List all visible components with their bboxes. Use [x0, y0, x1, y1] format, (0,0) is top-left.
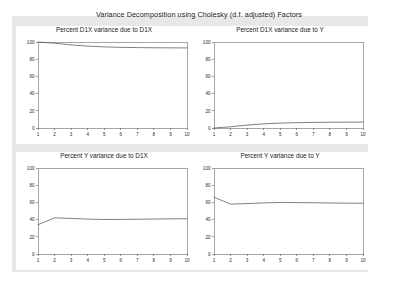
- y-tick-label: 100: [203, 166, 211, 171]
- x-tick-label: 7: [136, 258, 139, 263]
- x-tick-label: 5: [279, 258, 282, 263]
- y-tick-label: 40: [205, 217, 211, 222]
- x-tick-label: 2: [229, 132, 232, 137]
- x-tick-label: 10: [360, 132, 366, 137]
- y-tick-label: 40: [205, 91, 211, 96]
- panel-title-y-due-to-d1x: Percent Y variance due to D1X: [16, 152, 192, 159]
- plot-area-d1x-due-to-d1x: 02040608010012345678910: [16, 36, 192, 144]
- y-tick-label: 0: [32, 252, 35, 257]
- panel-d1x-due-to-d1x: Percent D1X variance due to D1X 02040608…: [16, 26, 192, 144]
- y-tick-label: 20: [29, 109, 35, 114]
- x-tick-label: 9: [345, 258, 348, 263]
- x-tick-label: 2: [229, 258, 232, 263]
- x-tick-label: 9: [345, 132, 348, 137]
- x-tick-label: 7: [312, 132, 315, 137]
- y-tick-label: 80: [205, 57, 211, 62]
- plot-area-y-due-to-y: 02040608010012345678910: [192, 162, 368, 270]
- y-tick-label: 80: [29, 183, 35, 188]
- x-tick-label: 8: [329, 132, 332, 137]
- y-tick-label: 100: [27, 40, 35, 45]
- x-tick-label: 3: [246, 132, 249, 137]
- x-tick-label: 4: [262, 258, 265, 263]
- x-tick-label: 3: [246, 258, 249, 263]
- panel-y-due-to-y: Percent Y variance due to Y 020406080100…: [192, 152, 368, 270]
- y-tick-label: 60: [29, 200, 35, 205]
- y-tick-label: 0: [208, 126, 211, 131]
- x-tick-label: 5: [103, 258, 106, 263]
- x-tick-label: 9: [169, 258, 172, 263]
- series-line: [38, 42, 187, 48]
- x-tick-label: 2: [53, 258, 56, 263]
- x-tick-label: 9: [169, 132, 172, 137]
- series-line: [214, 197, 363, 204]
- x-tick-label: 8: [153, 132, 156, 137]
- panel-y-due-to-d1x: Percent Y variance due to D1X 0204060801…: [16, 152, 192, 270]
- x-tick-label: 7: [136, 132, 139, 137]
- x-tick-label: 4: [86, 132, 89, 137]
- y-tick-label: 60: [205, 200, 211, 205]
- x-tick-label: 3: [70, 258, 73, 263]
- x-tick-label: 2: [53, 132, 56, 137]
- x-tick-label: 6: [119, 258, 122, 263]
- y-tick-label: 100: [27, 166, 35, 171]
- y-tick-label: 20: [29, 235, 35, 240]
- x-tick-label: 7: [312, 258, 315, 263]
- panel-title-d1x-due-to-d1x: Percent D1X variance due to D1X: [16, 26, 192, 33]
- x-tick-label: 4: [262, 132, 265, 137]
- y-tick-label: 20: [205, 109, 211, 114]
- x-tick-label: 6: [295, 132, 298, 137]
- panel-title-y-due-to-y: Percent Y variance due to Y: [192, 152, 368, 159]
- y-tick-label: 80: [205, 183, 211, 188]
- x-tick-label: 1: [37, 258, 40, 263]
- x-tick-label: 3: [70, 132, 73, 137]
- x-tick-label: 6: [119, 132, 122, 137]
- x-tick-label: 6: [295, 258, 298, 263]
- y-tick-label: 60: [29, 74, 35, 79]
- x-tick-label: 5: [103, 132, 106, 137]
- x-tick-label: 8: [153, 258, 156, 263]
- x-tick-label: 4: [86, 258, 89, 263]
- x-tick-label: 8: [329, 258, 332, 263]
- series-line: [38, 218, 187, 225]
- plot-area-y-due-to-d1x: 02040608010012345678910: [16, 162, 192, 270]
- figure-title: Variance Decomposition using Cholesky (d…: [0, 10, 398, 19]
- y-tick-label: 40: [29, 91, 35, 96]
- y-tick-label: 0: [32, 126, 35, 131]
- y-tick-label: 80: [29, 57, 35, 62]
- x-tick-label: 1: [213, 258, 216, 263]
- x-tick-label: 1: [213, 132, 216, 137]
- y-tick-label: 60: [205, 74, 211, 79]
- x-tick-label: 5: [279, 132, 282, 137]
- y-tick-label: 100: [203, 40, 211, 45]
- y-tick-label: 40: [29, 217, 35, 222]
- panel-d1x-due-to-y: Percent D1X variance due to Y 0204060801…: [192, 26, 368, 144]
- x-tick-label: 10: [360, 258, 366, 263]
- panel-title-d1x-due-to-y: Percent D1X variance due to Y: [192, 26, 368, 33]
- y-tick-label: 0: [208, 252, 211, 257]
- plot-area-d1x-due-to-y: 02040608010012345678910: [192, 36, 368, 144]
- series-line: [214, 122, 363, 128]
- y-tick-label: 20: [205, 235, 211, 240]
- x-tick-label: 1: [37, 132, 40, 137]
- x-tick-label: 10: [184, 132, 190, 137]
- x-tick-label: 10: [184, 258, 190, 263]
